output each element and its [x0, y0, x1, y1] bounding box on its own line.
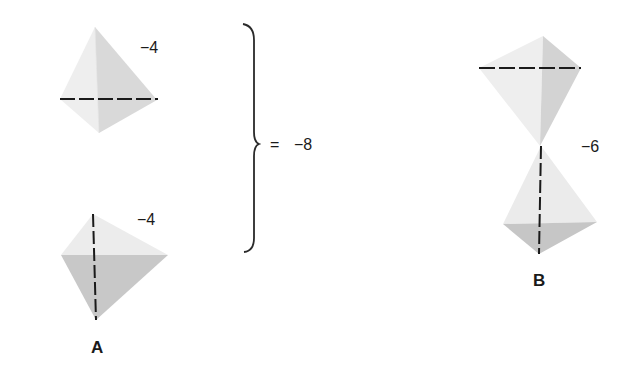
- panel-label-a: A: [91, 339, 103, 356]
- value-label-b: −6: [581, 139, 599, 155]
- equals-sign: =: [270, 137, 279, 153]
- panel-label-b: B: [533, 272, 545, 289]
- diagram-canvas: [0, 0, 644, 369]
- value-label-a-bottom: −4: [137, 212, 155, 228]
- curly-brace: [243, 24, 259, 252]
- tetrahedron-b-bottom: [503, 146, 597, 254]
- tetrahedron-b-top: [479, 36, 581, 146]
- value-label-a-top: −4: [140, 40, 158, 56]
- sum-value-label: −8: [294, 137, 312, 153]
- tetrahedron-a-bottom: [61, 214, 168, 320]
